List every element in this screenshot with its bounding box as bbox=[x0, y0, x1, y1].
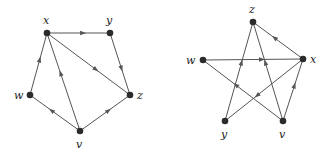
vertex-label-w: w bbox=[186, 54, 196, 67]
vertex-y bbox=[222, 118, 229, 125]
arrowhead-icon bbox=[272, 36, 278, 41]
vertex-z bbox=[127, 92, 134, 99]
edge-v-to-w bbox=[203, 60, 283, 121]
vertex-v bbox=[280, 118, 287, 125]
vertex-w bbox=[200, 57, 207, 64]
edge-v-to-z bbox=[80, 95, 130, 131]
arrowhead-icon bbox=[80, 31, 86, 35]
vertex-y bbox=[107, 30, 114, 37]
directed-graphs-diagram: xyzwv zwxyv bbox=[0, 0, 330, 157]
arrowhead-icon bbox=[37, 57, 41, 63]
vertex-x bbox=[44, 30, 51, 37]
right-graph: zwxyv bbox=[186, 3, 317, 141]
edge-w-to-x bbox=[30, 33, 47, 95]
vertex-label-y: y bbox=[220, 128, 228, 141]
arrowhead-icon bbox=[264, 60, 268, 66]
arrowhead-icon bbox=[239, 60, 243, 66]
vertex-w bbox=[27, 92, 34, 99]
vertex-label-z: z bbox=[136, 89, 143, 102]
edge-v-to-z bbox=[253, 22, 283, 121]
edge-v-to-x bbox=[47, 33, 80, 131]
edge-v-to-w bbox=[30, 95, 80, 131]
vertex-label-z: z bbox=[248, 3, 255, 16]
vertex-label-v: v bbox=[76, 138, 83, 151]
arrowhead-icon bbox=[118, 65, 122, 71]
vertex-label-y: y bbox=[105, 14, 113, 27]
vertex-x bbox=[300, 56, 307, 63]
edge-x-to-z bbox=[47, 33, 130, 95]
edge-y-to-z bbox=[225, 22, 253, 121]
vertex-label-v: v bbox=[279, 128, 286, 141]
arrowhead-icon bbox=[92, 66, 98, 71]
edge-v-to-x bbox=[283, 59, 303, 121]
edge-x-to-z bbox=[253, 22, 303, 59]
left-graph: xyzwv bbox=[14, 14, 143, 151]
arrowhead-icon bbox=[49, 109, 55, 114]
arrowhead-icon bbox=[105, 109, 111, 114]
vertex-label-x: x bbox=[310, 53, 317, 66]
edge-y-to-z bbox=[110, 33, 130, 95]
vertex-label-x: x bbox=[43, 14, 50, 27]
arrowhead-icon bbox=[59, 70, 63, 76]
edge-x-to-y bbox=[225, 59, 303, 121]
vertex-label-w: w bbox=[14, 89, 24, 102]
arrowhead-icon bbox=[291, 83, 295, 89]
edge-w-to-x bbox=[203, 59, 303, 60]
vertex-z bbox=[250, 19, 257, 26]
vertex-v bbox=[77, 128, 84, 135]
